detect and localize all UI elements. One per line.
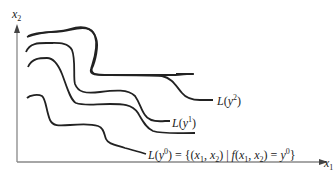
x-axis-label-sub: 1	[329, 163, 333, 172]
y-axis-label: x2	[12, 8, 21, 23]
axes	[14, 24, 328, 165]
level-set-diagram: x2 x1 L(y2) L(y1) L(y0) = {(x1, x2) | f(…	[0, 0, 336, 175]
x-axis-label: x1	[324, 157, 333, 172]
y-axis-label-sub: 2	[17, 14, 21, 23]
curve-label-y1: L(y1)	[172, 116, 196, 129]
curve-label-y1-sup: 1	[188, 115, 192, 124]
curve-label-y2-sup: 2	[233, 93, 237, 102]
level-curve-y2	[28, 28, 193, 75]
level-curve-y2-main	[27, 27, 213, 100]
y-axis-arrow-icon	[14, 24, 20, 33]
curve-label-y0: L(y0) = {(x1, x2) | f(x1, x2) = y0}	[148, 148, 295, 164]
curve-label-y0-sup: 0	[164, 147, 168, 156]
curve-label-y2: L(y2)	[217, 94, 241, 107]
